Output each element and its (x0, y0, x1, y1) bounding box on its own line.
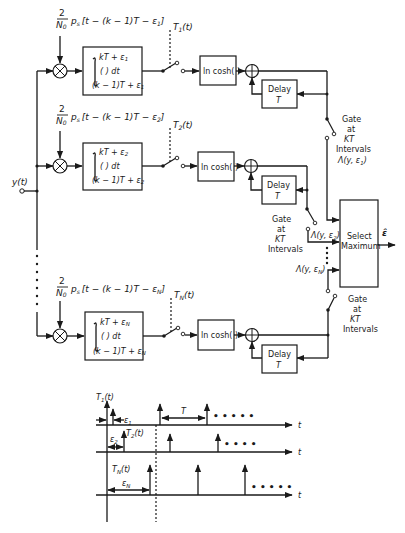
gate-switch-1: Gate at KT Intervals Λ(y, ε1) (325, 115, 371, 166)
svg-text:T: T (181, 407, 187, 416)
svg-text:T1(t): T1(t) (173, 22, 193, 33)
svg-text:2: 2 (59, 8, 65, 18)
reference-signal-1: 2 N0 ps[t − (k − 1)T − ε1] (56, 8, 165, 30)
svg-text:at: at (353, 305, 361, 314)
svg-text:( ) dt: ( ) dt (100, 162, 120, 171)
svg-text:kT + ε2: kT + ε2 (99, 148, 129, 157)
svg-text:ln cosh( ): ln cosh( ) (201, 331, 238, 340)
timing-row-n: t TN(t) εN • • • • • (96, 465, 302, 500)
svg-text:at: at (347, 125, 355, 134)
integrator-block-n: kT + εN ( ) dt (k − 1)T + εN (85, 312, 146, 360)
branch-2: 2 N0 ps[t − (k − 1)T − ε2] kT + ε2 ( ) d… (35, 104, 339, 254)
select-maximum-block: Select Maximum ε̂ (340, 200, 395, 287)
svg-text:( ) dt: ( ) dt (100, 67, 120, 76)
svg-text:t: t (298, 421, 302, 430)
svg-text:TN(t): TN(t) (174, 290, 195, 301)
svg-text:TN(t): TN(t) (112, 465, 130, 475)
svg-text:T2(t): T2(t) (126, 429, 144, 439)
svg-text:ps[t − (k − 1)T − ε1]: ps[t − (k − 1)T − ε1] (70, 16, 165, 27)
svg-text:Λ(y, εN): Λ(y, εN) (295, 265, 325, 275)
svg-text:kT + ε1: kT + ε1 (99, 53, 128, 62)
timing-diagram: T1(t) t ε1 T • • • • • t T2(t) ε2 • • • … (96, 393, 302, 522)
svg-text:t: t (298, 448, 302, 457)
svg-text:ps[t − (k − 1)T − ε2]: ps[t − (k − 1)T − ε2] (70, 112, 165, 123)
svg-text:ps[t − (k − 1)T − εN]: ps[t − (k − 1)T − εN] (70, 284, 166, 295)
input-label: y(t) (11, 177, 28, 187)
integrator-block-1: kT + ε1 ( ) dt (k − 1)T + ε1 (83, 47, 144, 95)
timing-row-1: T1(t) t ε1 T • • • • • (96, 393, 302, 430)
svg-text:2: 2 (59, 276, 65, 286)
svg-text:Intervals: Intervals (268, 245, 303, 254)
delay-block-1: Delay T (262, 80, 297, 108)
timing-row-2: t T2(t) ε2 • • • • (96, 429, 302, 457)
lncosh-block-n: ln cosh( ) (198, 320, 238, 350)
svg-text:ε2: ε2 (110, 435, 118, 445)
svg-text:Gate: Gate (272, 215, 291, 224)
svg-text:(k − 1)T + εN: (k − 1)T + εN (93, 347, 146, 356)
svg-text:N0: N0 (56, 288, 67, 298)
svg-text:KT: KT (350, 315, 361, 324)
svg-text:εN: εN (122, 479, 130, 489)
svg-text:Intervals: Intervals (343, 325, 378, 334)
svg-text:T1(t): T1(t) (96, 393, 114, 403)
adder-icon (246, 329, 259, 342)
svg-text:• • • • •: • • • • • (213, 411, 254, 421)
svg-text:Λ(y, ε1): Λ(y, ε1) (337, 156, 367, 166)
gate-switch-2: Gate at KT Intervals Λ(y, ε2) (268, 207, 340, 254)
sampler-switch-n: TN(t) (162, 290, 194, 338)
adder-icon (245, 160, 258, 173)
reference-signal-n: 2 N0 ps[t − (k − 1)T − εN] (56, 276, 166, 298)
svg-text:• • • •: • • • • (224, 439, 256, 449)
svg-text:Select: Select (347, 232, 372, 241)
svg-text:ln cosh( ): ln cosh( ) (201, 163, 238, 172)
input-node: y(t) (11, 177, 39, 193)
estimate-output-label: ε̂ (382, 228, 387, 238)
multiplier-icon (53, 64, 67, 78)
sampler-switch-1: T1(t) (161, 22, 193, 73)
delay-block-2: Delay T (262, 176, 296, 204)
svg-text:ln cosh( ): ln cosh( ) (203, 67, 240, 76)
svg-text:kT + εN: kT + εN (100, 318, 130, 327)
lncosh-block-1: ln cosh( ) (200, 56, 240, 85)
svg-text:2: 2 (59, 104, 65, 114)
svg-text:( ) dt: ( ) dt (101, 332, 121, 341)
adder-icon (246, 65, 259, 78)
svg-text:KT: KT (275, 235, 286, 244)
svg-text:• • • • •: • • • • • (251, 482, 292, 492)
svg-text:Intervals: Intervals (336, 145, 371, 154)
sampler-switch-2: T2(t) (161, 120, 193, 168)
svg-text:Gate: Gate (348, 295, 367, 304)
multiplier-icon (53, 329, 67, 343)
svg-text:Delay: Delay (267, 181, 290, 190)
svg-text:Gate: Gate (342, 115, 361, 124)
multiplier-icon (53, 159, 67, 173)
svg-text:N0: N0 (56, 20, 67, 30)
bus-ellipsis (36, 255, 38, 305)
reference-signal-2: 2 N0 ps[t − (k − 1)T − ε2] (56, 104, 165, 126)
svg-text:t: t (298, 491, 302, 500)
svg-text:T2(t): T2(t) (173, 120, 193, 131)
svg-text:Delay: Delay (268, 85, 291, 94)
svg-text:Delay: Delay (268, 350, 291, 359)
svg-text:at: at (277, 225, 285, 234)
block-diagram: y(t) 2 N0 ps[t − (k − 1)T − ε1] kT + ε1 (0, 0, 405, 533)
output-ellipsis (326, 247, 328, 264)
delay-block-n: Delay T (262, 345, 297, 373)
lncosh-block-2: ln cosh( ) (198, 152, 238, 181)
svg-text:(k − 1)T + ε1: (k − 1)T + ε1 (92, 81, 144, 90)
svg-text:ε1: ε1 (124, 416, 132, 426)
svg-text:N0: N0 (56, 116, 67, 126)
integrator-block-2: kT + ε2 ( ) dt (k − 1)T + ε2 (83, 143, 145, 190)
svg-text:(k − 1)T + ε2: (k − 1)T + ε2 (92, 176, 145, 185)
branch-n: 2 N0 ps[t − (k − 1)T − εN] kT + εN ( ) d… (37, 265, 378, 373)
svg-text:Λ(y, ε2): Λ(y, ε2) (310, 231, 340, 241)
svg-text:KT: KT (344, 135, 355, 144)
svg-text:Maximum: Maximum (341, 242, 381, 251)
